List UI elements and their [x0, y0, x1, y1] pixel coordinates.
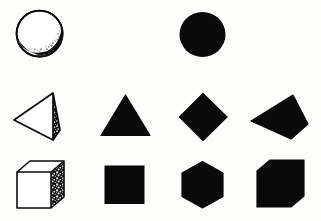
diamond-icon [178, 92, 230, 142]
diamond-shape [178, 92, 230, 142]
circle-icon [179, 11, 227, 59]
hexagon-icon [178, 160, 228, 210]
cube-silhouette-icon [254, 158, 308, 212]
triangle-shape [100, 93, 152, 138]
triangle-icon [100, 93, 152, 138]
sphere-shape [14, 8, 66, 60]
circle-shape [179, 11, 227, 59]
hexagon-shape [178, 160, 228, 210]
square-shape [103, 164, 147, 206]
shapes-figure [0, 0, 321, 221]
square-icon [103, 164, 147, 206]
cube-shape [14, 159, 68, 213]
cube-silhouette-shape [254, 158, 308, 212]
cube-icon [14, 159, 68, 213]
sphere-icon [14, 8, 66, 60]
tetrahedron-silhouette-shape [249, 93, 311, 142]
tetrahedron-shape [11, 90, 67, 144]
tetrahedron-icon [11, 90, 67, 144]
tetrahedron-silhouette-icon [249, 93, 311, 142]
